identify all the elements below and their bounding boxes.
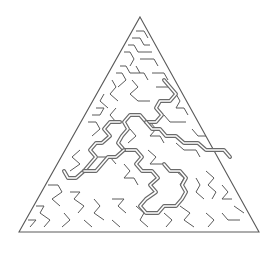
maze-wall: [62, 213, 70, 227]
triangular-maze: [0, 0, 263, 259]
maze-wall: [196, 178, 204, 199]
maze-wall: [70, 150, 80, 171]
maze-wall: [112, 199, 126, 213]
maze-canvas: [0, 0, 263, 259]
solution-segment-outer: [118, 80, 186, 213]
maze-wall: [130, 80, 150, 101]
maze-wall: [176, 94, 188, 115]
maze-wall: [132, 38, 150, 45]
solution-segment-outer: [146, 122, 230, 157]
maze-wall: [148, 150, 162, 164]
maze-wall: [176, 143, 200, 157]
maze-wall: [136, 31, 148, 38]
maze-wall: [222, 185, 232, 199]
maze-wall: [84, 220, 92, 227]
maze-wall: [164, 213, 172, 227]
solution-path: [64, 80, 230, 213]
maze-wall: [36, 206, 50, 227]
maze-wall: [110, 108, 116, 122]
maze-wall: [206, 213, 214, 227]
maze-wall: [70, 192, 84, 213]
maze-wall: [180, 206, 194, 227]
maze-wall: [120, 66, 148, 80]
maze-wall: [124, 164, 138, 185]
maze-wall: [140, 59, 158, 66]
maze-wall: [88, 122, 100, 136]
maze-wall: [136, 66, 140, 73]
maze-outline: [19, 17, 259, 232]
maze-wall: [116, 73, 126, 87]
maze-wall: [92, 108, 104, 115]
maze-wall: [110, 80, 118, 101]
maze-wall: [222, 213, 240, 220]
maze-walls: [28, 31, 244, 227]
maze-wall: [128, 45, 152, 52]
maze-wall: [100, 94, 108, 108]
maze-wall: [112, 220, 120, 227]
maze-wall: [234, 206, 244, 213]
maze-wall: [164, 115, 186, 122]
maze-wall: [28, 220, 36, 227]
maze-wall: [48, 185, 62, 206]
maze-wall: [94, 199, 104, 220]
maze-wall: [128, 129, 136, 143]
maze-wall: [124, 52, 134, 66]
maze-wall: [206, 171, 216, 199]
